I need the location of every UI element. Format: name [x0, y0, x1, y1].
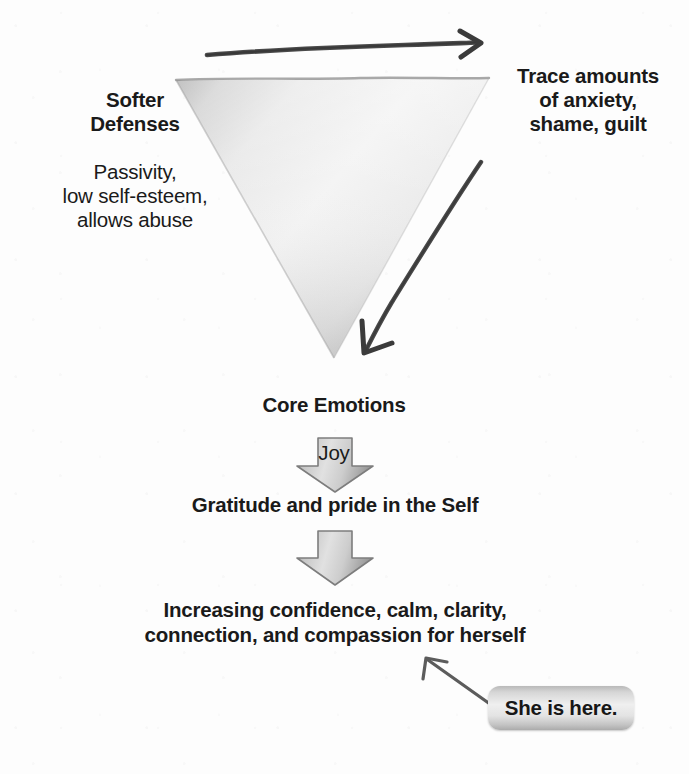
- diagram-canvas: Softer Defenses Passivity, low self-este…: [0, 0, 689, 774]
- label-increasing-confidence: Increasing confidence, calm, clarity, co…: [80, 597, 590, 648]
- callout-she-is-here: She is here.: [488, 686, 634, 730]
- label-core-emotions: Core Emotions Joy: [194, 369, 474, 489]
- label-core-emotions-heading: Core Emotions: [194, 393, 474, 417]
- label-trace-amounts: Trace amounts of anxiety, shame, guilt: [492, 64, 684, 136]
- downward-block-arrow-gratitude-to-increasing: [297, 531, 373, 585]
- label-softer-defenses-body: Passivity, low self-esteem, allows abuse: [40, 160, 230, 232]
- label-core-emotions-body: Joy: [194, 441, 474, 465]
- label-gratitude-and-pride: Gratitude and pride in the Self: [110, 493, 560, 517]
- top-rightward-arrow: [207, 31, 481, 57]
- callout-pointer-arrow: [423, 658, 497, 709]
- label-softer-defenses: Softer Defenses Passivity, low self-este…: [40, 64, 230, 256]
- label-softer-defenses-heading: Softer Defenses: [40, 88, 230, 136]
- callout-she-is-here-label: She is here.: [505, 696, 618, 720]
